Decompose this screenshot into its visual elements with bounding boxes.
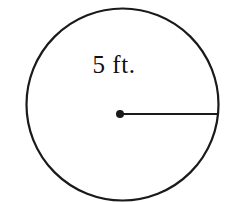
circle-with-radius-diagram: 5 ft. <box>0 0 228 202</box>
center-point-dot <box>116 110 124 118</box>
circle-outline <box>27 9 219 201</box>
radius-measurement-label: 5 ft. <box>0 50 228 80</box>
geometry-figure-canvas <box>0 0 228 202</box>
